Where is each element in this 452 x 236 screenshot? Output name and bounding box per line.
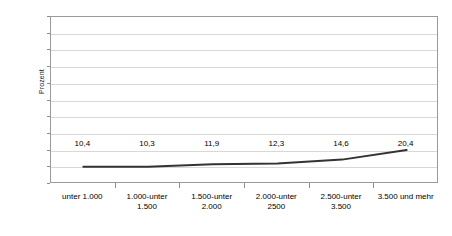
plot-area	[50, 16, 438, 183]
x-axis-category-label: 1.000-unter1.500	[127, 192, 168, 212]
series-line-prozent	[51, 17, 438, 183]
x-axis-category-label-line2: 2500	[256, 202, 297, 212]
x-axis-category-label-line2: 1.500	[127, 202, 168, 212]
x-axis-category-label-line1: unter 1.000	[62, 192, 102, 201]
x-axis-category-label: 2.500-unter3.500	[321, 192, 362, 212]
data-label: 14,6	[333, 139, 349, 148]
data-label: 10,3	[139, 139, 155, 148]
x-axis-category-label: unter 1.000	[62, 192, 102, 202]
data-label: 11,9	[204, 139, 219, 148]
x-axis-category-label: 3.500 und mehr	[378, 192, 434, 202]
x-axis-separator	[373, 183, 374, 188]
x-axis-separator	[309, 183, 310, 188]
data-label: 20,4	[398, 139, 414, 148]
x-axis-separator	[244, 183, 245, 188]
x-axis-category-label-line2: 3.500	[321, 202, 362, 212]
x-axis-separator	[179, 183, 180, 188]
x-axis-category-label-line1: 2.000-unter	[256, 192, 297, 201]
x-axis-separator	[115, 183, 116, 188]
y-axis-title: Prozent	[38, 47, 45, 117]
x-axis-category-label-line2: 2.000	[191, 202, 232, 212]
x-axis-category-label-line1: 3.500 und mehr	[378, 192, 434, 201]
data-label: 12,3	[269, 139, 285, 148]
chart-container: Prozent 1009080706050403020100 10,410,31…	[0, 0, 452, 236]
x-axis-category-label: 1.500-unter2.000	[191, 192, 232, 212]
x-axis-category-label: 2.000-unter2500	[256, 192, 297, 212]
data-label: 10,4	[75, 139, 91, 148]
y-axis-tick-mark	[47, 183, 50, 184]
x-axis-category-label-line1: 1.500-unter	[191, 192, 232, 201]
x-axis-category-label-line1: 1.000-unter	[127, 192, 168, 201]
x-axis-category-label-line1: 2.500-unter	[321, 192, 362, 201]
